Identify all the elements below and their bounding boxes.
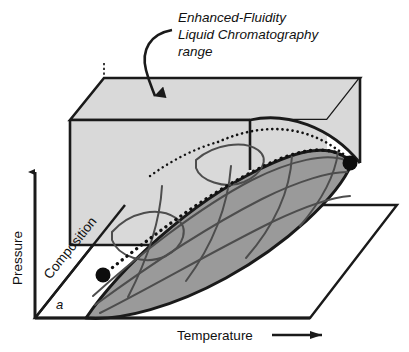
annotation-line-1: Enhanced-Fluidity — [178, 10, 287, 25]
pressure-axis-label: Pressure — [10, 231, 25, 285]
box-top-face — [70, 78, 360, 120]
lower-critical-point-marker — [96, 268, 111, 283]
origin-point-label: a — [56, 297, 63, 312]
temperature-axis-label: Temperature — [177, 328, 253, 343]
diagram-canvas: Enhanced-Fluidity Liquid Chromatography … — [0, 0, 409, 352]
annotation-line-3: range — [178, 44, 213, 59]
annotation-line-2: Liquid Chromatography — [178, 27, 320, 42]
phase-diagram-figure: Enhanced-Fluidity Liquid Chromatography … — [0, 0, 409, 352]
upper-critical-point-marker — [343, 156, 358, 171]
